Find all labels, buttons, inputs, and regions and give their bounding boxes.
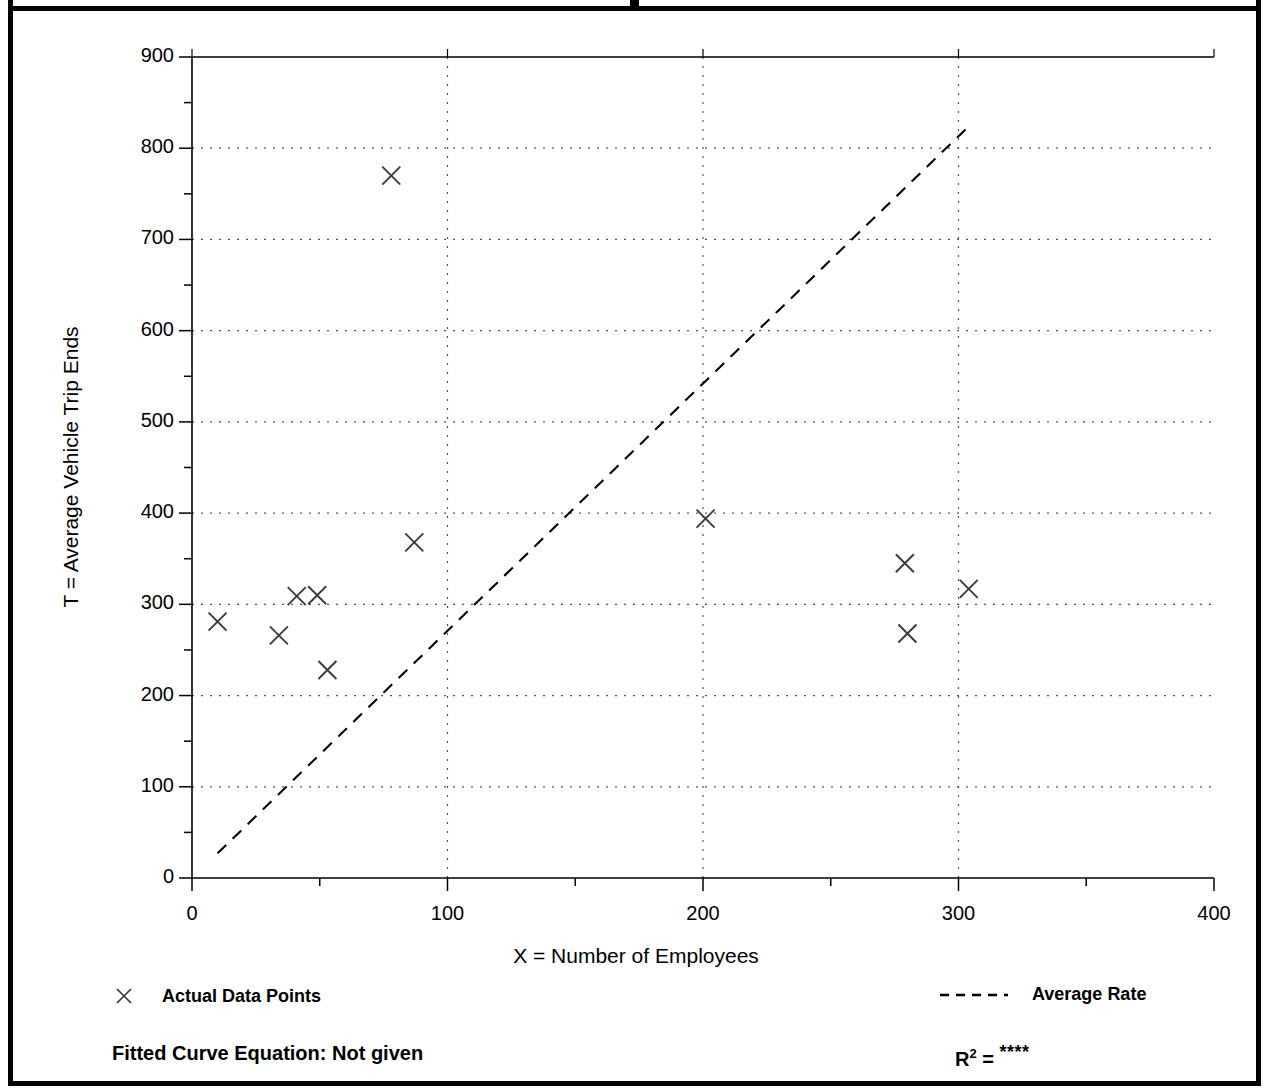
y-axis-tick-label: 500 (104, 409, 174, 432)
gridlines-group (192, 57, 1214, 878)
fitted-curve-equation-note: Fitted Curve Equation: Not given (112, 1042, 423, 1065)
y-axis-title: T = Average Vehicle Trip Ends (59, 187, 83, 747)
x-axis-tick-label: 400 (1179, 902, 1249, 925)
data-point-marker (960, 580, 978, 598)
data-point-marker (382, 167, 400, 185)
legend-item-average-rate: Average Rate (938, 984, 1146, 1005)
x-axis-tick-label: 200 (668, 902, 738, 925)
y-axis-tick-label: 900 (104, 44, 174, 67)
y-axis-tick-label: 700 (104, 226, 174, 249)
y-axis-tick-label: 0 (104, 865, 174, 888)
x-axis-tick-label: 0 (157, 902, 227, 925)
dashed-line-icon (938, 988, 1010, 1002)
average-rate-line (218, 126, 969, 853)
average-rate-trendline (218, 126, 969, 853)
data-point-marker (697, 510, 715, 528)
axis-ticks-group (179, 49, 1214, 891)
data-point-marker (405, 533, 423, 551)
legend-label-actual-data-points: Actual Data Points (162, 986, 321, 1007)
y-axis-tick-label: 100 (104, 774, 174, 797)
y-axis-tick-label: 200 (104, 683, 174, 706)
x-axis-tick-label: 300 (924, 902, 994, 925)
legend-item-actual-data-points: Actual Data Points (112, 984, 321, 1008)
data-point-marker (318, 661, 336, 679)
r-squared-symbol: R (955, 1048, 969, 1070)
data-point-marker (898, 625, 916, 643)
data-point-marker (308, 586, 326, 604)
y-axis-tick-label: 800 (104, 135, 174, 158)
r-squared-note: R2 = **** (955, 1042, 1030, 1071)
y-axis-tick-label: 300 (104, 591, 174, 614)
data-point-marker (896, 554, 914, 572)
data-point-marker (209, 613, 227, 631)
axis-lines-group (192, 57, 1214, 878)
legend-label-average-rate: Average Rate (1032, 984, 1146, 1005)
y-axis-tick-label: 600 (104, 318, 174, 341)
data-point-marker (270, 626, 288, 644)
r-squared-exponent: 2 (969, 1046, 976, 1061)
x-marker-icon (112, 984, 136, 1008)
r-squared-value: **** (999, 1042, 1029, 1062)
x-axis-tick-label: 100 (413, 902, 483, 925)
y-axis-tick-label: 400 (104, 500, 174, 523)
scatter-plot-canvas (0, 0, 1272, 1092)
r-squared-equals: = (977, 1048, 1000, 1070)
data-point-marker (288, 587, 306, 605)
data-points-group (209, 167, 978, 679)
x-axis-title: X = Number of Employees (0, 944, 1272, 968)
chart-page: T = Average Vehicle Trip Ends X = Number… (0, 0, 1272, 1092)
